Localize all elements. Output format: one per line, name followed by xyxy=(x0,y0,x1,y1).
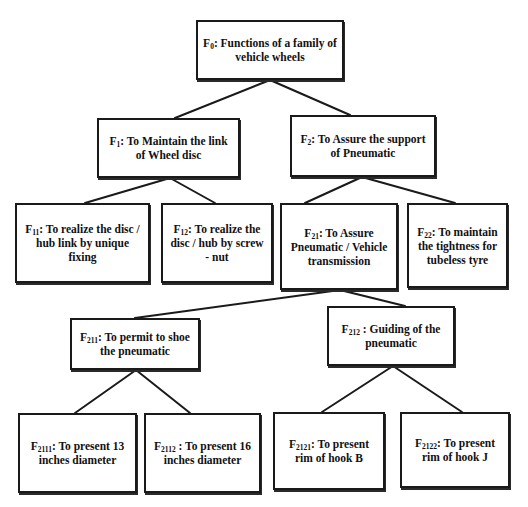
node-f2112-text: F2112 : To present 16 inches diameter xyxy=(151,439,254,467)
node-f1: F1: To Maintain the link of Wheel disc xyxy=(97,118,240,178)
node-f2112-id: F2112 xyxy=(154,440,176,452)
node-f2122-id: F2122 xyxy=(415,437,437,449)
node-f12-id: F12 xyxy=(174,223,189,235)
node-f1-label: : To Maintain the link of Wheel disc xyxy=(120,135,227,161)
node-f2121: F2121: To present rim of hook B xyxy=(273,412,385,490)
node-f2111-id: F2111 xyxy=(31,440,52,452)
node-f211: F211: To permit to shoe the pneumatic xyxy=(70,318,200,370)
node-f211-label: : To permit to shoe the pneumatic xyxy=(98,331,190,357)
edge-f0-f2 xyxy=(270,80,350,115)
node-f212-id: F212 xyxy=(342,323,360,335)
node-f22-id: F22 xyxy=(417,226,432,238)
edge-f212-f2122 xyxy=(393,366,462,412)
node-f12-text: F12: To realize the disc / hub by screw … xyxy=(168,222,266,264)
node-f2111-text: F2111: To present 13 inches diameter xyxy=(25,439,130,467)
node-f22-text: F22: To maintain the tightness for tubel… xyxy=(414,225,501,267)
node-f2-text: F2: To Assure the support of Pneumatic xyxy=(297,132,429,160)
edge-f21-f211 xyxy=(135,290,340,318)
edge-f1-f12 xyxy=(170,178,215,203)
edge-f2-f22 xyxy=(362,177,455,203)
edge-f212-f2121 xyxy=(322,366,393,412)
node-f211-id: F211 xyxy=(80,331,98,343)
node-f2112-label: : To present 16 inches diameter xyxy=(164,440,251,466)
node-f2122-text: F2122: To present rim of hook J xyxy=(407,436,503,464)
node-f2-id: F2 xyxy=(301,133,312,145)
node-f12: F12: To realize the disc / hub by screw … xyxy=(161,203,273,283)
node-f0-id: F0 xyxy=(203,37,214,49)
node-f21: F21: To Assure Pneumatic / Vehicle trans… xyxy=(280,203,398,290)
node-f2111: F2111: To present 13 inches diameter xyxy=(18,413,137,493)
node-f2122: F2122: To present rim of hook J xyxy=(400,412,510,488)
edge-f2-f21 xyxy=(305,177,362,203)
node-f2121-text: F2121: To present rim of hook B xyxy=(280,437,378,465)
node-f0-label: : Functions of a family of vehicle wheel… xyxy=(214,37,337,63)
node-f11-text: F11: To realize the disc / hub link by u… xyxy=(22,222,143,264)
edge-f211-f2112 xyxy=(136,370,190,413)
node-f21-id: F21 xyxy=(304,227,319,239)
edge-f21-f212 xyxy=(340,290,405,306)
edge-f211-f2111 xyxy=(75,370,136,413)
node-f211-text: F211: To permit to shoe the pneumatic xyxy=(77,330,193,358)
node-f1-id: F1 xyxy=(109,135,120,147)
node-f2-label: : To Assure the support of Pneumatic xyxy=(311,133,425,159)
node-f212-label: : Guiding of the pneumatic xyxy=(360,323,441,349)
edge-f1-f11 xyxy=(85,178,170,203)
node-f1-text: F1: To Maintain the link of Wheel disc xyxy=(104,134,233,162)
node-f212: F212 : Guiding of the pneumatic xyxy=(327,306,455,366)
node-f11-label: : To realize the disc / hub link by uniq… xyxy=(36,223,140,263)
node-f11: F11: To realize the disc / hub link by u… xyxy=(15,203,150,283)
node-f0-text: F0: Functions of a family of vehicle whe… xyxy=(203,36,337,64)
node-f11-id: F11 xyxy=(25,223,39,235)
node-f212-text: F212 : Guiding of the pneumatic xyxy=(334,322,448,350)
node-f2111-label: : To present 13 inches diameter xyxy=(39,440,125,466)
node-f2: F2: To Assure the support of Pneumatic xyxy=(290,115,436,177)
edge-f0-f1 xyxy=(175,80,270,118)
node-f2112: F2112 : To present 16 inches diameter xyxy=(144,413,261,493)
node-f22: F22: To maintain the tightness for tubel… xyxy=(407,203,508,288)
node-f0: F0: Functions of a family of vehicle whe… xyxy=(196,20,344,80)
node-f2121-id: F2121 xyxy=(289,438,311,450)
node-f21-text: F21: To Assure Pneumatic / Vehicle trans… xyxy=(287,226,391,268)
